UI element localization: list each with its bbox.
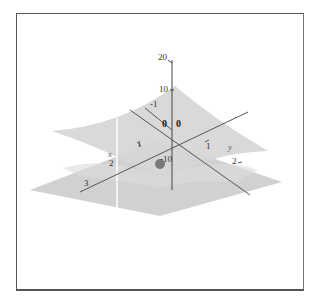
z-tick-neg10: -10 — [160, 154, 172, 164]
x-tick-neg1: -1 — [150, 99, 158, 109]
y-tick-0: 0 — [176, 118, 181, 129]
z-tick-20: 20 — [158, 52, 168, 62]
x-tick-0: 0 — [162, 118, 167, 129]
y-axis-label: y — [227, 142, 232, 152]
y-tick-1: 1 — [206, 141, 211, 151]
x-tick-3: 3 — [84, 178, 89, 188]
x-tick-1: 1 — [137, 139, 142, 149]
z-tick-10: 10 — [159, 84, 169, 94]
y-tick-2: 2 — [232, 156, 237, 166]
surface-plot[interactable]: 20 10 -1 0 0 1 1 x 2 y 2 3 -10 — [0, 0, 316, 305]
x-tick-2: 2 — [109, 158, 114, 168]
